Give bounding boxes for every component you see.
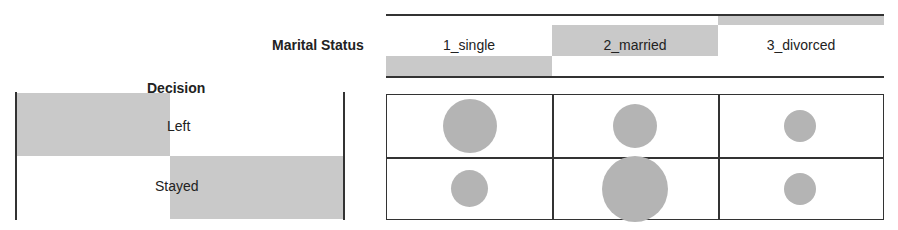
marginal-bar-single bbox=[386, 56, 552, 76]
bubble-left-married bbox=[613, 104, 657, 148]
column-label-married: 2_married bbox=[552, 37, 718, 53]
column-label-single: 1_single bbox=[386, 37, 552, 53]
bubble-stayed-married bbox=[602, 156, 668, 222]
column-variable-title: Marital Status bbox=[272, 37, 364, 53]
header-bottom-rule bbox=[386, 76, 884, 78]
row-label-stayed: Stayed bbox=[155, 178, 199, 194]
column-label-divorced: 3_divorced bbox=[718, 37, 884, 53]
marginal-bar-left bbox=[17, 93, 170, 156]
row-header-left-rule bbox=[15, 92, 17, 220]
marginal-bar-divorced bbox=[718, 16, 884, 25]
bubble-stayed-divorced bbox=[784, 173, 816, 205]
bubble-stayed-single bbox=[451, 170, 488, 207]
bubble-left-divorced bbox=[784, 110, 816, 142]
bubble-grid bbox=[386, 94, 884, 220]
row-header-right-rule bbox=[343, 92, 345, 220]
row-label-left: Left bbox=[167, 118, 190, 134]
bubble-left-single bbox=[443, 99, 497, 153]
